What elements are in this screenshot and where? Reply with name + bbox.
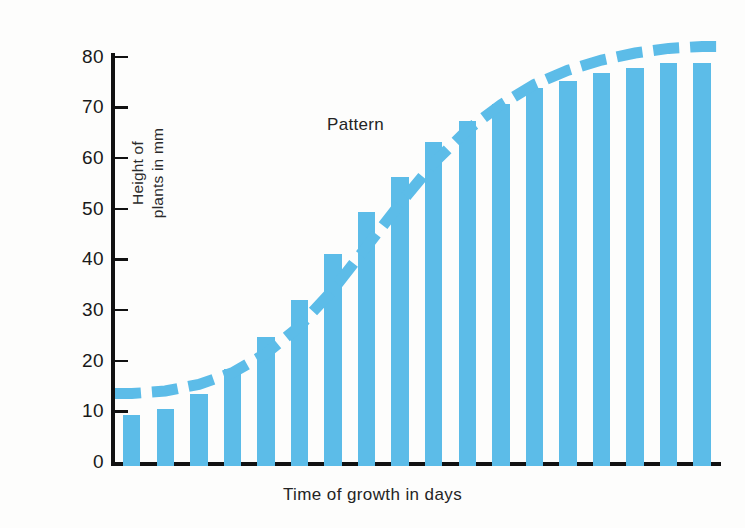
bar bbox=[224, 369, 241, 466]
y-axis-tick-labels: 01020304050607080 bbox=[58, 0, 104, 528]
bar bbox=[459, 121, 476, 466]
y-axis-tick-label: 60 bbox=[64, 147, 104, 169]
y-axis-tick-label: 50 bbox=[64, 198, 104, 220]
bar bbox=[157, 409, 174, 466]
bar bbox=[693, 63, 710, 466]
bar bbox=[324, 254, 341, 466]
bar bbox=[425, 142, 442, 466]
y-axis-tick-label: 0 bbox=[64, 451, 104, 473]
y-axis-tick-label: 30 bbox=[64, 299, 104, 321]
plot-area bbox=[111, 55, 719, 464]
bar bbox=[492, 104, 509, 466]
bar bbox=[391, 177, 408, 466]
bar bbox=[626, 68, 643, 466]
bar bbox=[358, 212, 375, 466]
bar bbox=[660, 63, 677, 466]
pattern-annotation-label: Pattern bbox=[327, 115, 384, 135]
y-axis-tick-label: 20 bbox=[64, 350, 104, 372]
bar bbox=[559, 81, 576, 466]
bar bbox=[123, 415, 140, 466]
bar bbox=[526, 88, 543, 466]
x-axis-title: Time of growth in days bbox=[0, 485, 745, 505]
y-axis-tick-label: 70 bbox=[64, 96, 104, 118]
growth-bar-chart: Height of plants in mm 01020304050607080… bbox=[0, 0, 745, 528]
bar bbox=[190, 394, 207, 466]
y-axis-tick-label: 40 bbox=[64, 248, 104, 270]
bar bbox=[257, 337, 274, 466]
y-axis-tick-label: 10 bbox=[64, 400, 104, 422]
y-axis-tick-label: 80 bbox=[64, 46, 104, 68]
bar bbox=[291, 300, 308, 466]
bar bbox=[593, 73, 610, 466]
